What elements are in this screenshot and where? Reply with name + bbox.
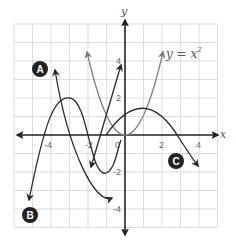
- equation-label: y = x2: [165, 46, 202, 61]
- y-tick: -2: [113, 167, 121, 177]
- badge-c: C: [168, 153, 184, 169]
- function-graph: x y -4 -2 0 2 4 4 2 -2 -4 y = x2 A B C: [0, 0, 236, 242]
- svg-text:C: C: [172, 156, 179, 167]
- y-tick: 4: [116, 56, 121, 66]
- badge-a: A: [32, 61, 48, 77]
- x-axis-label: x: [220, 128, 227, 141]
- y-tick: -4: [113, 204, 121, 214]
- curve-a-rising-branch: [91, 65, 121, 167]
- svg-text:B: B: [26, 210, 33, 221]
- svg-text:A: A: [36, 64, 43, 75]
- y-axis-label: y: [120, 5, 128, 18]
- x-tick: 4: [196, 140, 201, 150]
- x-tick: 2: [159, 140, 164, 150]
- y-tick: 2: [116, 93, 121, 103]
- badge-b: B: [22, 207, 38, 223]
- x-tick: -4: [44, 140, 52, 150]
